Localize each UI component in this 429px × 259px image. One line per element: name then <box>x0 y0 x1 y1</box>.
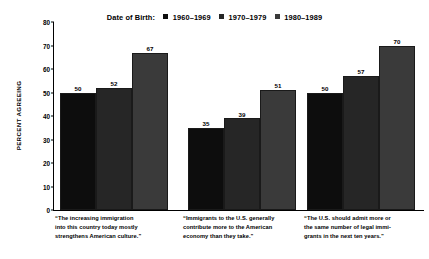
caption-line: strengthens American culture.” <box>55 232 177 241</box>
caption-line: the same number of legal immi- <box>304 223 428 232</box>
bar-1960-1969[interactable]: 50 <box>307 93 343 211</box>
y-tick-label-0: 0 <box>24 207 54 214</box>
y-tick-label-40: 40 <box>24 113 54 120</box>
bar-group-admit: 50 57 70 <box>307 22 417 210</box>
caption-line: economy than they take.” <box>183 232 307 241</box>
legend-label: 1970–1979 <box>229 13 267 22</box>
caption-line: “The U.S. should admit more or <box>304 214 428 223</box>
caption-line: grants in the next ten years.” <box>304 232 428 241</box>
bar-1980-1989[interactable]: 67 <box>132 53 168 210</box>
bar-1980-1989[interactable]: 51 <box>260 90 296 210</box>
bar-group-culture: 50 52 67 <box>60 22 170 210</box>
bar-value-label: 67 <box>147 46 154 52</box>
legend-swatch-icon <box>275 14 280 19</box>
legend-label: 1980–1989 <box>284 13 322 22</box>
category-label-admit: “The U.S. should admit more or the same … <box>304 214 428 242</box>
y-tick-label-10: 10 <box>24 183 54 190</box>
legend-title: Date of Birth: <box>107 13 155 22</box>
plot-area: 0 10 20 30 40 50 60 70 80 50 52 67 <box>53 22 424 211</box>
y-tick-label-60: 60 <box>24 66 54 73</box>
category-label-culture: “The increasing immigration into this co… <box>55 214 177 242</box>
bar-1980-1989[interactable]: 70 <box>379 46 415 211</box>
y-tick-label-50: 50 <box>24 89 54 96</box>
caption-line: contribute more to the American <box>183 223 307 232</box>
bar-value-label: 50 <box>75 86 82 92</box>
y-tick-label-70: 70 <box>24 42 54 49</box>
legend-entry-1980-1989: 1980–1989 <box>275 12 323 22</box>
bar-value-label: 57 <box>358 69 365 75</box>
bar-1970-1979[interactable]: 52 <box>96 88 132 210</box>
y-tick-label-80: 80 <box>24 19 54 26</box>
category-label-economy: “Immigrants to the U.S. generally contri… <box>183 214 307 242</box>
bar-value-label: 70 <box>394 39 401 45</box>
bar-1960-1969[interactable]: 50 <box>60 93 96 211</box>
bar-groups: 50 52 67 35 39 51 <box>54 22 424 210</box>
category-captions: “The increasing immigration into this co… <box>53 214 424 259</box>
y-tick-label-20: 20 <box>24 160 54 167</box>
bar-value-label: 52 <box>111 81 118 87</box>
bar-value-label: 51 <box>275 83 282 89</box>
chart-legend: Date of Birth: 1960–1969 1970–1979 1980–… <box>0 12 429 22</box>
caption-line: “The increasing immigration <box>55 214 177 223</box>
bar-value-label: 50 <box>322 86 329 92</box>
y-axis-title: PERCENT AGREEING <box>15 66 22 166</box>
legend-entry-1960-1969: 1960–1969 <box>163 12 211 22</box>
legend-swatch-icon <box>163 14 168 19</box>
bar-chart: Date of Birth: 1960–1969 1970–1979 1980–… <box>0 0 429 259</box>
legend-entry-1970-1979: 1970–1979 <box>219 12 267 22</box>
bar-1970-1979[interactable]: 57 <box>343 76 379 210</box>
y-tick-label-30: 30 <box>24 136 54 143</box>
bar-1970-1979[interactable]: 39 <box>224 118 260 210</box>
caption-line: “Immigrants to the U.S. generally <box>183 214 307 223</box>
legend-swatch-icon <box>219 14 224 19</box>
caption-line: into this country today mostly <box>55 223 177 232</box>
bar-value-label: 35 <box>203 121 210 127</box>
bar-value-label: 39 <box>239 112 246 118</box>
bar-group-economy: 35 39 51 <box>188 22 298 210</box>
bar-1960-1969[interactable]: 35 <box>188 128 224 210</box>
legend-label: 1960–1969 <box>173 13 211 22</box>
